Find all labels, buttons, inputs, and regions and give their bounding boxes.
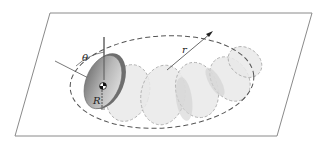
R-label: R: [92, 95, 101, 106]
rolling-disk-diagram: θ r R: [0, 0, 332, 143]
disk-center-hub: [100, 83, 107, 90]
theta-label: θ: [82, 52, 88, 63]
